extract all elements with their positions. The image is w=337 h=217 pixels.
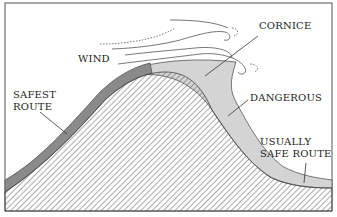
- safest-route-line2: ROUTE: [13, 101, 63, 113]
- dangerous-label: DANGEROUS: [250, 92, 322, 104]
- usually-safe-line2: SAFE ROUTE: [260, 148, 337, 160]
- wind-label: WIND: [78, 53, 110, 65]
- safest-route-label: SAFEST ROUTE: [13, 89, 63, 113]
- usually-safe-route-label: USUALLY SAFE ROUTE: [260, 136, 337, 160]
- usually-safe-line1: USUALLY: [260, 136, 337, 148]
- cornice-label: CORNICE: [259, 20, 311, 32]
- safest-route-line1: SAFEST: [13, 89, 63, 101]
